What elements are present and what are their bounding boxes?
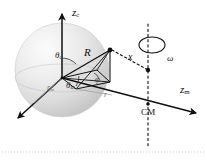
distance-x-label: x xyxy=(128,52,132,62)
axis-zm-label: zm xyxy=(180,84,190,96)
theta-m-label: θm xyxy=(66,81,75,91)
rm-label: rm xyxy=(47,84,54,93)
apex-point xyxy=(108,48,113,53)
omega-label: ω xyxy=(167,54,173,63)
axis-zc-label: zc xyxy=(72,7,79,19)
theta-c-label: θc xyxy=(55,51,62,61)
omega-rotation-ellipse xyxy=(139,37,165,53)
radius-R-label: R xyxy=(84,47,91,58)
center-of-mass-label: CM xyxy=(141,108,155,117)
phi-label: φ xyxy=(95,75,100,84)
origin-point xyxy=(61,77,64,80)
r-label: r xyxy=(104,91,107,99)
axis-intersection-point xyxy=(146,68,150,72)
center-of-mass-point xyxy=(146,102,150,106)
figure-canvas xyxy=(0,0,207,160)
